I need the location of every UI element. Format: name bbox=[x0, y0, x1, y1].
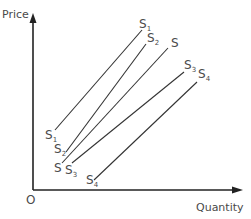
x-axis-arrow-icon bbox=[232, 187, 243, 194]
supply-diagram: Price Quantity O S1 S2 S S3 S4 S1 S2 S S… bbox=[0, 0, 251, 219]
curve-label-s4-top: S4 bbox=[198, 67, 211, 83]
supply-curves bbox=[55, 30, 197, 180]
supply-curve-s bbox=[62, 48, 168, 163]
curve-label-s3-bottom: S3 bbox=[65, 163, 77, 179]
curve-label-s4-bottom: S4 bbox=[86, 173, 99, 189]
y-axis-arrow-icon bbox=[30, 13, 37, 23]
origin-label: O bbox=[26, 193, 35, 207]
supply-curve-s1 bbox=[55, 30, 142, 130]
curve-label-s-top: S bbox=[171, 36, 179, 50]
supply-curve-s3 bbox=[72, 72, 184, 163]
x-axis-label: Quantity bbox=[196, 201, 244, 214]
curve-label-s2-bottom: S2 bbox=[54, 142, 66, 158]
y-axis-label: Price bbox=[2, 8, 29, 21]
curve-label-s3-top: S3 bbox=[184, 58, 196, 74]
curve-label-s-bottom: S bbox=[54, 161, 62, 175]
curve-label-s2-top: S2 bbox=[147, 31, 159, 47]
supply-curve-s4 bbox=[94, 82, 197, 180]
